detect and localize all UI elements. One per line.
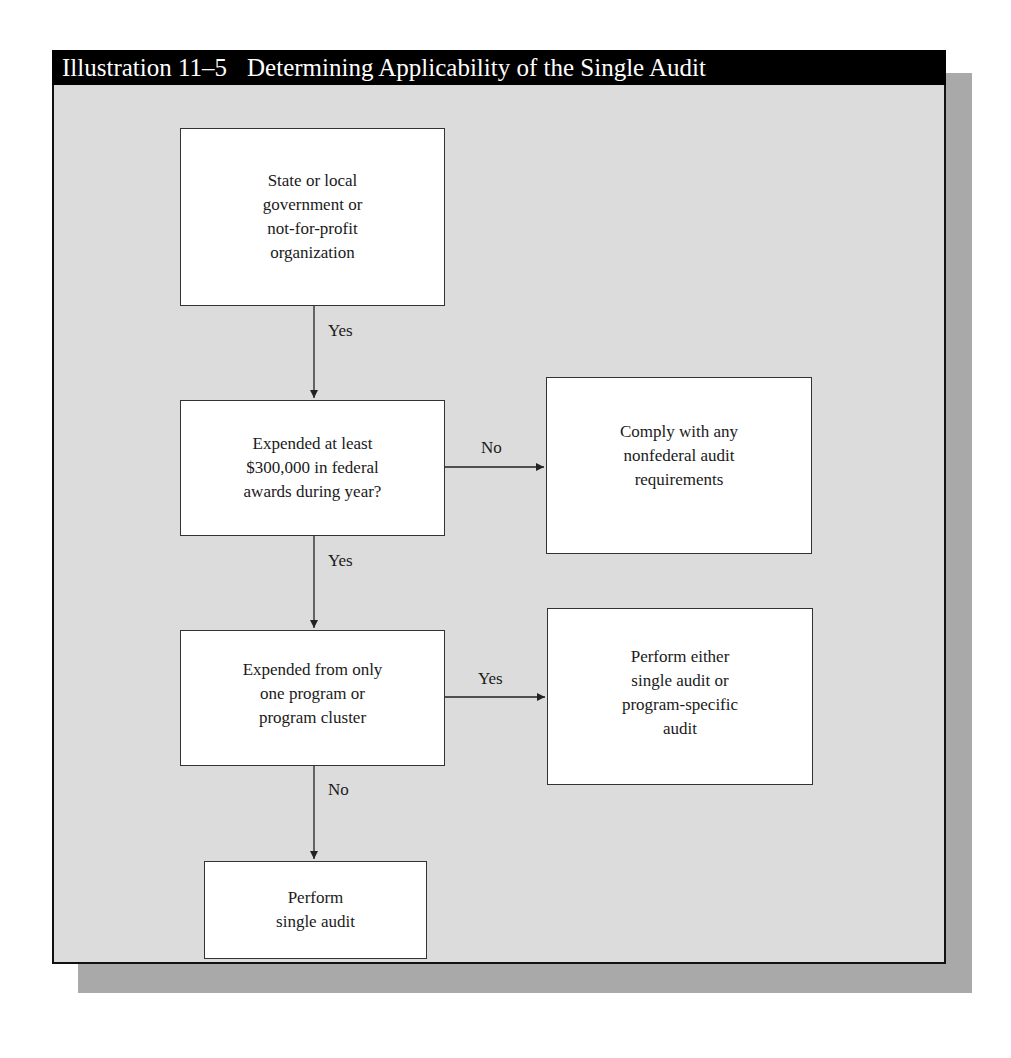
node-either-audit: Perform either single audit or program-s… (547, 608, 813, 785)
node-text-line: audit (622, 717, 738, 741)
figure-title-bar: Illustration 11–5Determining Applicabili… (52, 50, 946, 85)
node-single-audit: Perform single audit (204, 861, 427, 959)
edge-label-yes-1: Yes (328, 321, 353, 341)
node-text-line: State or local (263, 169, 363, 193)
node-text-line: single audit or (622, 669, 738, 693)
node-entity-type: State or local government or not-for-pro… (180, 128, 445, 306)
edge-label-no-1: No (481, 438, 502, 458)
node-text-line: Comply with any (620, 420, 738, 444)
node-text-line: Perform (276, 886, 355, 910)
node-text-line: government or (263, 193, 363, 217)
node-text-line: requirements (620, 468, 738, 492)
node-text-line: program-specific (622, 693, 738, 717)
figure-caption: Determining Applicability of the Single … (247, 54, 706, 81)
node-text-line: organization (263, 241, 363, 265)
node-text-line: $300,000 in federal (244, 456, 382, 480)
node-one-program-decision: Expended from only one program or progra… (180, 630, 445, 766)
edge-label-no-2: No (328, 780, 349, 800)
node-text-line: Expended at least (244, 432, 382, 456)
edge-label-yes-2: Yes (328, 551, 353, 571)
node-text-line: program cluster (243, 706, 383, 730)
node-text-line: awards during year? (244, 480, 382, 504)
node-text-line: Expended from only (243, 658, 383, 682)
figure-title: Illustration 11–5Determining Applicabili… (62, 53, 706, 83)
node-text-line: not-for-profit (263, 217, 363, 241)
node-text-line: Perform either (622, 645, 738, 669)
node-text-line: one program or (243, 682, 383, 706)
figure-label: Illustration 11–5 (62, 54, 227, 81)
node-text-line: single audit (276, 910, 355, 934)
node-text-line: nonfederal audit (620, 444, 738, 468)
node-expended-300k-decision: Expended at least $300,000 in federal aw… (180, 400, 445, 536)
edge-label-yes-3: Yes (478, 669, 503, 689)
node-nonfederal-requirements: Comply with any nonfederal audit require… (546, 377, 812, 554)
